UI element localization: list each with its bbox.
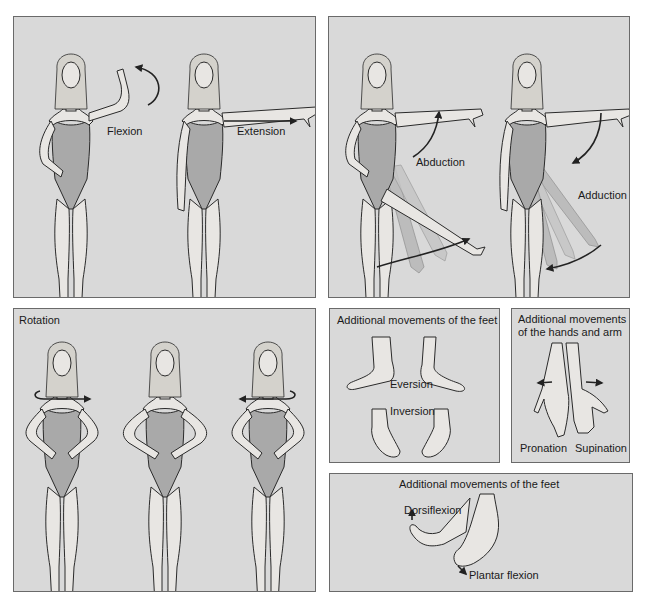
adduction-label: Adduction [578, 189, 627, 202]
panel-hands-arm: Additional movements of the hands and ar… [511, 308, 630, 463]
flexion-extension-illustration [14, 17, 316, 298]
pronation-arrow [538, 382, 552, 383]
plantar-flexion-label: Plantar flexion [469, 569, 539, 582]
flexion-arrow [136, 67, 159, 105]
figure-extension [177, 54, 316, 298]
figure-adduction [500, 54, 630, 298]
abduction-adduction-illustration [329, 17, 630, 298]
panel-rotation: Rotation [13, 308, 316, 592]
supination-label: Supination [575, 442, 627, 455]
inversion-label: Inversion [390, 405, 435, 418]
figure-rotation-right [232, 342, 304, 592]
plantar-flexion-arrow [458, 566, 466, 574]
supination-arrow [586, 382, 602, 383]
hand-pronated [534, 343, 569, 437]
abduction-label: Abduction [416, 156, 465, 169]
figure-flexion [40, 54, 129, 298]
dorsiflexion-label: Dorsiflexion [404, 504, 461, 517]
panel-feet-dorsi-plantar: Additional movements of the feet Dorsifl… [329, 473, 633, 592]
hand-supinated [566, 343, 608, 433]
hands-arm-illustration [512, 309, 630, 463]
rotation-illustration [14, 309, 316, 592]
panel-flexion-extension: Flexion Extension [13, 16, 316, 298]
eversion-label: Eversion [390, 378, 433, 391]
figure-rotation-left [26, 342, 98, 592]
panel-abduction-adduction: Abduction Adduction [328, 16, 630, 298]
flexion-label: Flexion [107, 125, 142, 138]
foot-everted-left [347, 337, 394, 390]
extension-label: Extension [237, 125, 285, 138]
panel-feet-eversion-inversion: Additional movements of the feet Eversio… [329, 308, 500, 463]
pronation-label: Pronation [520, 442, 567, 455]
figure-rotation-center [123, 342, 206, 592]
